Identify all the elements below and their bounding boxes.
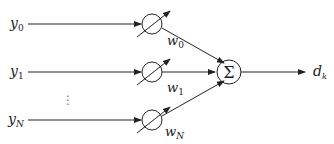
input-label-yN: yN — [7, 111, 25, 129]
ellipsis: ⋮ — [62, 93, 74, 107]
input-branch-N: yN wN — [7, 81, 224, 141]
adaptive-linear-combiner-diagram: y0 w0 y1 w1 ⋮ yN wN — [0, 0, 334, 144]
input-branch-0: y0 w0 — [9, 11, 224, 63]
sigma-icon: Σ — [223, 63, 234, 82]
input-branch-1: y1 w1 — [9, 59, 215, 97]
output-label-dk: dk — [313, 63, 327, 81]
summation-node: Σ — [217, 60, 241, 84]
input-label-y1: y1 — [9, 63, 24, 81]
input-label-y0: y0 — [9, 15, 24, 33]
weight-label-w1: w1 — [167, 80, 184, 97]
diagram-svg: y0 w0 y1 w1 ⋮ yN wN — [0, 0, 334, 144]
weight-label-wN: wN — [165, 124, 185, 141]
